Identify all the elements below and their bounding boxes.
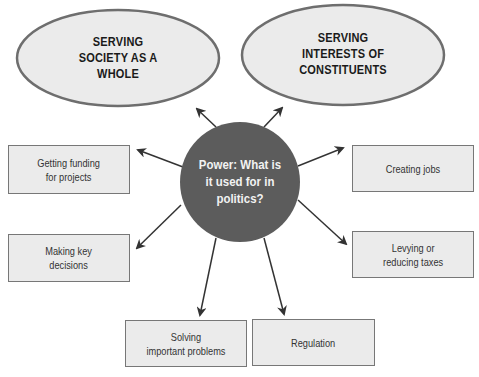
box-label-solving-problems: Solving important problems — [146, 330, 225, 358]
box-label-regulation: Regulation — [291, 336, 335, 350]
arrow-to-society — [197, 109, 216, 127]
arrow-to-taxes — [298, 200, 346, 244]
box-label-making-key-decisions: Making key decisions — [46, 244, 93, 272]
arrow-to-regulation — [264, 238, 284, 314]
box-creating-jobs: Creating jobs — [352, 145, 474, 192]
arrow-to-jobs — [298, 148, 343, 166]
goal-label-society: SERVING SOCIETY AS A WHOLE — [48, 34, 189, 82]
goal-label-constituents: SERVING INTERESTS OF CONSTITUENTS — [273, 30, 414, 78]
arrow-to-solving — [200, 238, 216, 315]
box-solving-problems: Solving important problems — [125, 320, 247, 367]
box-regulation: Regulation — [252, 319, 375, 366]
box-making-key-decisions: Making key decisions — [8, 234, 130, 282]
arrow-to-decisions — [137, 205, 181, 248]
box-label-creating-jobs: Creating jobs — [386, 162, 440, 176]
arrow-to-funding — [138, 150, 183, 167]
box-label-levying-taxes: Levying or reducing taxes — [383, 241, 443, 269]
box-getting-funding: Getting funding for projects — [8, 145, 130, 194]
arrow-to-constituents — [264, 108, 282, 127]
box-label-getting-funding: Getting funding for projects — [38, 156, 101, 184]
box-levying-taxes: Levying or reducing taxes — [352, 231, 474, 278]
hub-label: Power: What is it used for in politics? — [189, 156, 291, 207]
